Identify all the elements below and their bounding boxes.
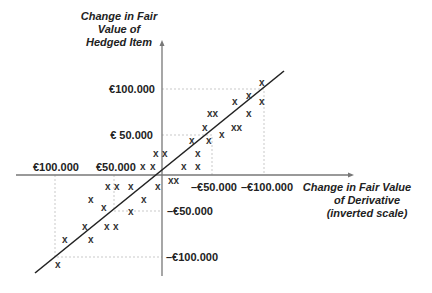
ref-line-100k-positive	[162, 89, 264, 175]
data-point: x	[259, 77, 265, 88]
x-tick-left-50k: €50.000	[96, 161, 136, 173]
data-point: x	[88, 234, 94, 245]
data-point: xx	[168, 175, 180, 186]
data-point: x	[246, 90, 252, 101]
data-point: x	[114, 181, 120, 192]
data-point: x	[101, 202, 107, 213]
y-axis-arrow-icon	[160, 40, 165, 46]
data-point: x	[195, 161, 201, 172]
data-point: xx	[231, 122, 243, 133]
data-point: x	[259, 96, 265, 107]
y-axis-title-line-1: Change in Fair	[81, 10, 158, 22]
data-point: x	[181, 161, 187, 172]
data-point: x	[128, 206, 134, 217]
data-point: x	[202, 122, 208, 133]
data-point: x	[219, 129, 225, 140]
ref-line-50k-positive	[162, 135, 212, 175]
data-point: xx	[207, 108, 219, 119]
data-point: x	[153, 148, 159, 159]
y-tick-50k: € 50.000	[110, 129, 153, 141]
x-tick-right-100k: –€100.000	[241, 181, 293, 193]
y-tick-minus-100k: –€100.000	[166, 251, 218, 263]
data-point: x	[189, 135, 195, 146]
data-point: x	[62, 234, 68, 245]
data-point: x	[55, 259, 61, 270]
data-point: x	[155, 181, 161, 192]
y-axis-title-line-3: Hedged Item	[86, 36, 152, 48]
scatter-points: x x x x x xx xx x x x x x x x x x x x xx…	[55, 77, 265, 270]
data-point: x	[105, 181, 111, 192]
data-point: x	[82, 221, 88, 232]
data-point: x	[128, 181, 134, 192]
y-tick-minus-50k: –€50.000	[167, 205, 213, 217]
x-axis-title-line-3: (inverted scale)	[327, 207, 408, 219]
data-point: x	[150, 161, 156, 172]
data-point: x	[206, 135, 212, 146]
y-tick-100k: €100.000	[109, 83, 155, 95]
data-point: x	[162, 148, 168, 159]
x-axis-arrow-icon	[348, 173, 354, 178]
x-axis-title-line-1: Change in Fair Value	[303, 181, 411, 193]
data-point: x	[141, 194, 147, 205]
x-tick-left-100k: €100.000	[33, 161, 79, 173]
data-point: x	[246, 108, 252, 119]
data-point: x	[104, 221, 110, 232]
hedge-effectiveness-chart: Change in Fair Value of Hedged Item Chan…	[0, 0, 432, 293]
data-point: x	[140, 161, 146, 172]
data-point: x	[88, 194, 94, 205]
x-axis-title-line-2: of Derivative	[334, 194, 400, 206]
data-point: x	[232, 96, 238, 107]
y-axis-title-line-2: Value of	[98, 23, 142, 35]
data-point: x	[195, 148, 201, 159]
x-tick-right-50k: –€50.000	[191, 181, 237, 193]
data-point: x	[113, 221, 119, 232]
